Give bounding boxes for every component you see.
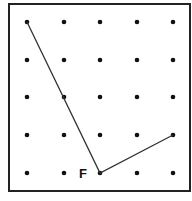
vertex-label-f: F <box>79 167 87 180</box>
grid-dot <box>25 133 30 138</box>
grid-dot <box>25 171 30 176</box>
grid-dot <box>25 95 30 100</box>
grid-dot <box>171 171 176 176</box>
grid-dot <box>62 20 67 25</box>
grid-dot <box>171 20 176 25</box>
grid-dot <box>171 95 176 100</box>
grid-dot <box>98 58 103 63</box>
grid-dot <box>98 133 103 138</box>
geoboard <box>0 0 192 201</box>
grid-dot <box>62 58 67 63</box>
grid-dot <box>62 171 67 176</box>
dot-grid <box>25 20 176 176</box>
grid-dot <box>135 133 140 138</box>
grid-dot <box>98 20 103 25</box>
grid-dot <box>98 95 103 100</box>
grid-dot <box>135 58 140 63</box>
grid-dot <box>135 20 140 25</box>
grid-dot <box>135 171 140 176</box>
grid-dot <box>171 58 176 63</box>
grid-dot <box>135 95 140 100</box>
grid-dot <box>25 58 30 63</box>
grid-dot <box>62 133 67 138</box>
